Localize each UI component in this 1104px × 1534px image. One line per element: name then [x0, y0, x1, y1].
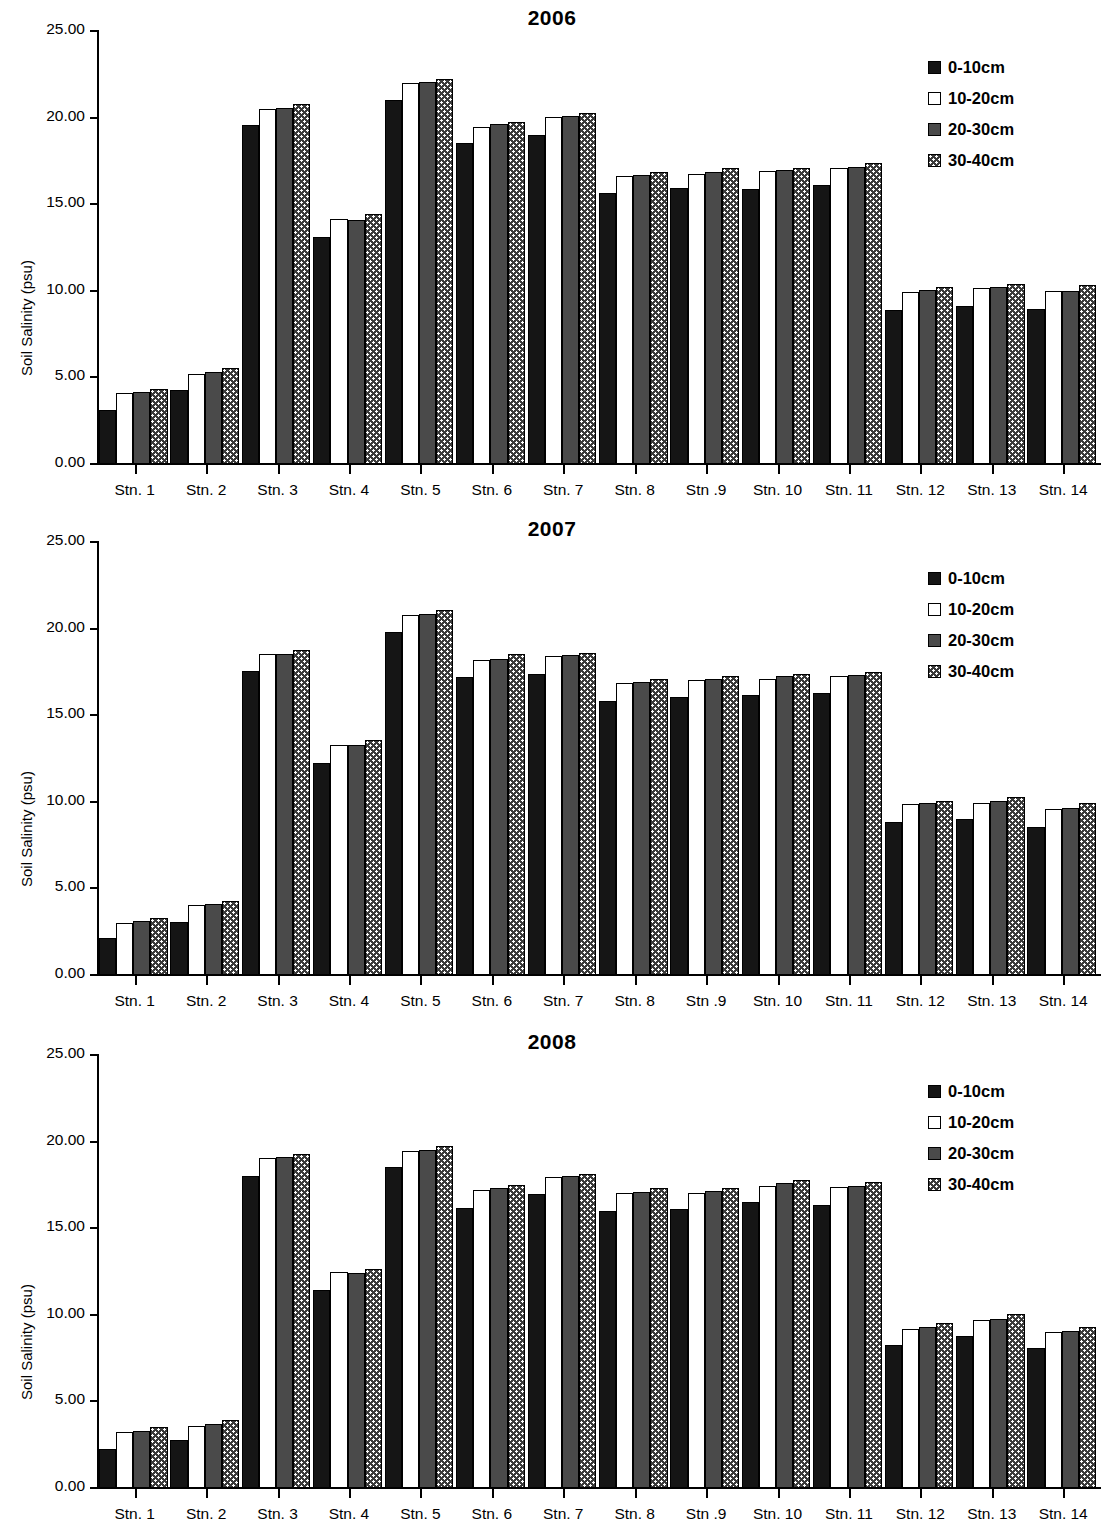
- bar-30-40cm-Stn. 3: [293, 1154, 310, 1487]
- y-tick-mark: [90, 1487, 97, 1489]
- checkered-swatch: [928, 665, 941, 678]
- x-axis-line: [97, 974, 1101, 976]
- bar-20-30cm-Stn .9: [705, 1191, 722, 1487]
- x-tick-mark: [778, 465, 780, 474]
- y-tick-mark: [90, 974, 97, 976]
- x-tick-label-1: Stn. 1: [99, 481, 170, 499]
- chart-legend: 0-10cm10-20cm20-30cm30-40cm: [928, 1076, 1014, 1200]
- x-axis-labels: Stn. 1Stn. 2Stn. 3Stn. 4Stn. 5Stn. 6Stn.…: [99, 481, 1099, 499]
- bar-group: [385, 1054, 456, 1487]
- bar-30-40cm-Stn .9: [722, 168, 739, 463]
- bar-10-20cm-Stn. 6: [473, 660, 490, 974]
- bar-30-40cm-Stn. 12: [936, 1323, 953, 1487]
- bar-20-30cm-Stn. 12: [919, 290, 936, 463]
- x-tick-mark: [706, 1489, 708, 1498]
- bar-10-20cm-Stn .9: [688, 1193, 705, 1487]
- bar-0-10cm-Stn. 7: [528, 1194, 545, 1487]
- x-tick-mark: [206, 976, 208, 985]
- bar-20-30cm-Stn. 3: [276, 108, 293, 463]
- bar-20-30cm-Stn. 8: [633, 175, 650, 463]
- bar-0-10cm-Stn. 2: [170, 390, 187, 463]
- x-tick-label-5: Stn. 5: [385, 481, 456, 499]
- x-tick-label-6: Stn. 6: [456, 992, 527, 1010]
- bar-20-30cm-Stn. 12: [919, 1327, 936, 1487]
- x-tick-mark: [920, 976, 922, 985]
- x-tick-mark: [635, 1489, 637, 1498]
- x-tick-label-12: Stn. 12: [885, 992, 956, 1010]
- bar-0-10cm-Stn. 6: [456, 143, 473, 463]
- x-tick-label-11: Stn. 11: [813, 992, 884, 1010]
- x-tick-mark: [778, 976, 780, 985]
- bar-0-10cm-Stn. 8: [599, 1211, 616, 1487]
- bar-10-20cm-Stn. 1: [116, 923, 133, 974]
- x-tick-mark: [992, 1489, 994, 1498]
- bar-group: [670, 1054, 741, 1487]
- bar-10-20cm-Stn. 11: [830, 676, 847, 974]
- bar-30-40cm-Stn. 3: [293, 650, 310, 974]
- bar-0-10cm-Stn. 5: [385, 100, 402, 463]
- y-tick-mark: [90, 1227, 97, 1229]
- x-tick-mark: [992, 976, 994, 985]
- bar-group: [170, 30, 241, 463]
- legend-item-30-40cm: 30-40cm: [928, 1169, 1014, 1200]
- bar-30-40cm-Stn. 2: [222, 901, 239, 974]
- bar-group: [528, 541, 599, 974]
- y-axis-label: Soil Salinity (psu): [18, 1285, 35, 1401]
- bar-0-10cm-Stn. 10: [742, 695, 759, 974]
- bar-10-20cm-Stn. 5: [402, 1151, 419, 1487]
- y-tick-label: 5.00: [55, 1391, 85, 1407]
- bar-20-30cm-Stn. 10: [776, 676, 793, 974]
- x-tick-mark: [635, 465, 637, 474]
- chart-title: 2008: [0, 1030, 1104, 1054]
- bar-20-30cm-Stn. 3: [276, 1157, 293, 1487]
- bar-30-40cm-Stn. 12: [936, 287, 953, 463]
- bar-30-40cm-Stn. 7: [579, 1174, 596, 1487]
- bar-10-20cm-Stn. 1: [116, 393, 133, 463]
- x-tick-mark: [1063, 976, 1065, 985]
- x-tick-mark: [135, 465, 137, 474]
- y-tick-label: 20.00: [46, 1132, 85, 1148]
- bar-30-40cm-Stn .9: [722, 676, 739, 974]
- bar-30-40cm-Stn. 4: [365, 1269, 382, 1487]
- x-tick-label-7: Stn. 7: [528, 1505, 599, 1523]
- y-tick-label: 0.00: [55, 454, 85, 470]
- legend-label: 10-20cm: [948, 600, 1014, 619]
- legend-label: 0-10cm: [948, 1082, 1005, 1101]
- x-tick-mark: [920, 465, 922, 474]
- x-tick-mark: [349, 976, 351, 985]
- bar-10-20cm-Stn. 14: [1045, 809, 1062, 974]
- x-tick-label-12: Stn. 12: [885, 481, 956, 499]
- legend-item-10-20cm: 10-20cm: [928, 83, 1014, 114]
- bar-group: [99, 541, 170, 974]
- bar-30-40cm-Stn. 6: [508, 1185, 525, 1487]
- y-tick-mark: [90, 887, 97, 889]
- bar-group: [456, 541, 527, 974]
- legend-item-0-10cm: 0-10cm: [928, 563, 1014, 594]
- y-tick-mark: [90, 1400, 97, 1402]
- bar-group: [313, 541, 384, 974]
- x-tick-mark: [849, 976, 851, 985]
- x-tick-mark: [420, 976, 422, 985]
- bar-group: [456, 30, 527, 463]
- bar-group: [599, 541, 670, 974]
- bar-0-10cm-Stn. 5: [385, 632, 402, 974]
- x-tick-label-13: Stn. 13: [956, 992, 1027, 1010]
- bar-20-30cm-Stn .9: [705, 172, 722, 463]
- bar-0-10cm-Stn. 3: [242, 671, 259, 974]
- bar-30-40cm-Stn. 1: [150, 389, 167, 463]
- bar-0-10cm-Stn. 4: [313, 1290, 330, 1487]
- bar-30-40cm-Stn. 10: [793, 168, 810, 463]
- x-tick-label-4: Stn. 4: [313, 992, 384, 1010]
- checkered-swatch: [928, 154, 941, 167]
- bar-20-30cm-Stn. 14: [1062, 291, 1079, 463]
- chart-title: 2007: [0, 517, 1104, 541]
- x-tick-label-7: Stn. 7: [528, 481, 599, 499]
- bar-30-40cm-Stn. 1: [150, 1427, 167, 1487]
- bar-10-20cm-Stn. 12: [902, 1329, 919, 1487]
- bar-0-10cm-Stn. 14: [1027, 1348, 1044, 1487]
- legend-label: 20-30cm: [948, 631, 1014, 650]
- x-tick-label-8: Stn. 8: [599, 992, 670, 1010]
- solid-black-swatch: [928, 572, 941, 585]
- bar-10-20cm-Stn. 2: [188, 905, 205, 974]
- bar-20-30cm-Stn. 5: [419, 614, 436, 974]
